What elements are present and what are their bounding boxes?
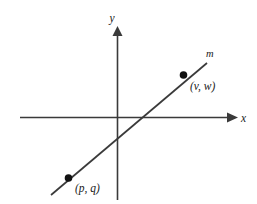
point-pq-label: (p, q) — [75, 182, 100, 195]
y-axis-group: y — [108, 12, 122, 200]
coordinate-plane-figure: x y m (v, w) (p, q) — [0, 0, 257, 204]
y-axis-label: y — [108, 12, 115, 25]
line-m — [51, 63, 207, 195]
x-axis-arrow-icon — [227, 113, 238, 123]
figure-canvas: x y m (v, w) (p, q) — [0, 0, 257, 204]
point-pq-marker — [65, 174, 73, 182]
point-pq-group: (p, q) — [65, 174, 100, 195]
x-axis-group: x — [20, 112, 247, 124]
y-axis-arrow-icon — [113, 26, 123, 36]
point-vw-label: (v, w) — [190, 80, 216, 93]
line-m-group: m — [51, 48, 214, 195]
x-axis-label: x — [240, 112, 247, 124]
line-m-label: m — [206, 48, 214, 59]
point-vw-marker — [180, 71, 188, 79]
